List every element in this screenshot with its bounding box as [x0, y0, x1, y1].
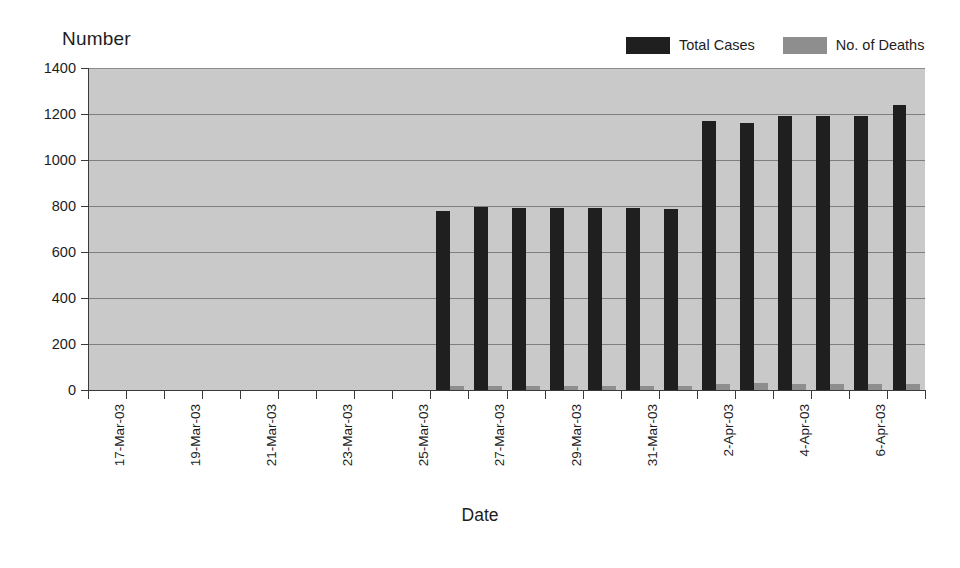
- bar-total-cases: [550, 208, 564, 390]
- bar-total-cases: [816, 116, 830, 390]
- y-axis-tick: [81, 344, 88, 345]
- y-axis-tick-label: 0: [68, 382, 76, 398]
- x-axis-tick: [887, 390, 888, 399]
- y-axis-tick-label: 400: [52, 290, 76, 306]
- x-axis-tick: [240, 390, 241, 399]
- y-axis-tick: [81, 390, 88, 391]
- x-axis-tick: [811, 390, 812, 399]
- y-axis-tick-label: 200: [52, 336, 76, 352]
- y-axis-tick: [81, 114, 88, 115]
- x-axis-tick-label: 21-Mar-03: [264, 404, 279, 466]
- bar-total-cases: [702, 121, 716, 390]
- x-axis-tick: [278, 390, 279, 399]
- y-axis-tick: [81, 160, 88, 161]
- bar-total-cases: [626, 208, 640, 390]
- bar-total-cases: [778, 116, 792, 390]
- y-axis-tick: [81, 252, 88, 253]
- legend-label-no-of-deaths: No. of Deaths: [836, 37, 925, 53]
- bar-total-cases: [474, 207, 488, 390]
- x-axis-tick: [735, 390, 736, 399]
- legend-swatch-no-of-deaths: [783, 37, 827, 54]
- bar-total-cases: [893, 105, 907, 390]
- bar-no-of-deaths: [754, 383, 768, 390]
- x-axis-tick: [202, 390, 203, 399]
- x-axis-tick-label: 4-Apr-03: [797, 404, 812, 457]
- gridline: [89, 160, 925, 161]
- x-axis-tick-label: 6-Apr-03: [873, 404, 888, 457]
- y-axis-tick-label: 1000: [44, 152, 76, 168]
- legend-item-total-cases: Total Cases: [626, 37, 755, 54]
- y-axis-tick: [81, 298, 88, 299]
- x-axis-tick: [773, 390, 774, 399]
- y-axis-tick-label: 1200: [44, 106, 76, 122]
- bar-total-cases: [664, 209, 678, 390]
- x-axis-tick: [507, 390, 508, 399]
- legend-item-no-of-deaths: No. of Deaths: [783, 37, 925, 54]
- gridline: [89, 298, 925, 299]
- y-axis-tick-label: 1400: [44, 60, 76, 76]
- x-axis-tick-label: 25-Mar-03: [416, 404, 431, 466]
- x-axis-tick: [468, 390, 469, 399]
- x-axis-tick: [545, 390, 546, 399]
- chart-legend: Total Cases No. of Deaths: [626, 35, 924, 55]
- plot-area: [88, 68, 925, 390]
- bar-total-cases: [740, 123, 754, 390]
- x-axis-tick: [316, 390, 317, 399]
- legend-swatch-total-cases: [626, 37, 670, 54]
- plot-top-border: [89, 68, 925, 69]
- x-axis-tick: [430, 390, 431, 399]
- x-axis-tick: [659, 390, 660, 399]
- chart-figure: Number Total Cases No. of Deaths 0200400…: [0, 0, 960, 568]
- gridline: [89, 252, 925, 253]
- x-axis-tick: [583, 390, 584, 399]
- x-axis-tick-label: 27-Mar-03: [492, 404, 507, 466]
- x-axis-tick: [392, 390, 393, 399]
- x-axis-tick: [621, 390, 622, 399]
- x-axis-tick-label: 2-Apr-03: [721, 404, 736, 457]
- x-axis-tick-label: 31-Mar-03: [645, 404, 660, 466]
- legend-label-total-cases: Total Cases: [679, 37, 755, 53]
- y-axis-tick-label: 600: [52, 244, 76, 260]
- x-axis-title: Date: [0, 505, 960, 526]
- x-axis-tick: [88, 390, 89, 399]
- bar-total-cases: [512, 208, 526, 390]
- y-axis-tick-label: 800: [52, 198, 76, 214]
- x-axis-tick: [849, 390, 850, 399]
- y-axis-tick: [81, 68, 88, 69]
- bar-total-cases: [854, 116, 868, 390]
- x-axis-tick: [354, 390, 355, 399]
- x-axis-tick-label: 29-Mar-03: [569, 404, 584, 466]
- x-axis-tick-label: 23-Mar-03: [340, 404, 355, 466]
- y-axis-tick: [81, 206, 88, 207]
- x-axis-tick-label: 17-Mar-03: [112, 404, 127, 466]
- x-axis-tick: [164, 390, 165, 399]
- y-axis-title: Number: [62, 28, 131, 50]
- x-axis-tick-label: 19-Mar-03: [188, 404, 203, 466]
- x-axis-tick: [925, 390, 926, 399]
- bar-total-cases: [588, 208, 602, 390]
- gridline: [89, 344, 925, 345]
- x-axis-tick: [126, 390, 127, 399]
- x-axis-tick: [697, 390, 698, 399]
- gridline: [89, 206, 925, 207]
- gridline: [89, 114, 925, 115]
- bar-total-cases: [436, 211, 450, 390]
